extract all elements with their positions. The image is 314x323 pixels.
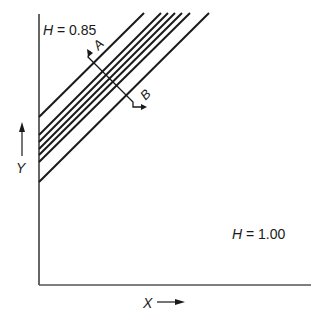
label-h-top-var: H: [43, 22, 53, 38]
y-arrow-icon: [19, 122, 25, 132]
y-axis-label: Y: [16, 161, 25, 175]
label-h-top: H = 0.85: [43, 23, 96, 37]
diagram-canvas: [0, 0, 314, 323]
arrow-b-icon: [141, 104, 147, 110]
x-axis-label: X: [143, 296, 152, 310]
contour-lines: [39, 13, 209, 182]
x-arrow-icon: [175, 299, 185, 305]
label-h-bottom-var: H: [232, 226, 242, 242]
label-h-top-value: = 0.85: [53, 22, 96, 38]
label-h-bottom: H = 1.00: [232, 227, 285, 241]
contour-line: [39, 13, 209, 182]
label-h-bottom-value: = 1.00: [242, 226, 285, 242]
arrow-a-icon: [87, 49, 93, 57]
